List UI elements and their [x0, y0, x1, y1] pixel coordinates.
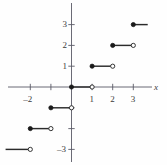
y-tick-label--3: –3 — [57, 145, 66, 154]
open-endpoint-1 — [49, 127, 53, 131]
x-tick-label-1: 1 — [90, 95, 95, 104]
x-tick-label--2: –2 — [23, 95, 32, 104]
open-endpoint-3 — [90, 85, 94, 89]
open-endpoint-5 — [131, 43, 135, 47]
y-tick-label-1: 1 — [63, 62, 68, 71]
x-axis-label: x — [154, 83, 158, 92]
x-tick-label-3: 3 — [131, 95, 136, 104]
closed-endpoint-4 — [90, 64, 94, 68]
closed-endpoint-3 — [69, 85, 73, 89]
open-endpoint-4 — [111, 64, 115, 68]
step-function-figure: –2123 321–3 x — [0, 0, 167, 165]
axes-group — [8, 3, 152, 162]
closed-endpoint-2 — [49, 106, 53, 110]
open-endpoint-0 — [28, 147, 32, 151]
open-endpoint-2 — [69, 106, 73, 110]
closed-endpoint-6 — [131, 23, 135, 27]
x-tick-label-2: 2 — [110, 95, 115, 104]
y-tick-label-3: 3 — [63, 20, 68, 29]
closed-endpoint-5 — [111, 43, 115, 47]
closed-endpoint-1 — [28, 127, 32, 131]
y-tick-label-2: 2 — [63, 41, 68, 50]
coordinate-plane-svg — [0, 0, 167, 165]
